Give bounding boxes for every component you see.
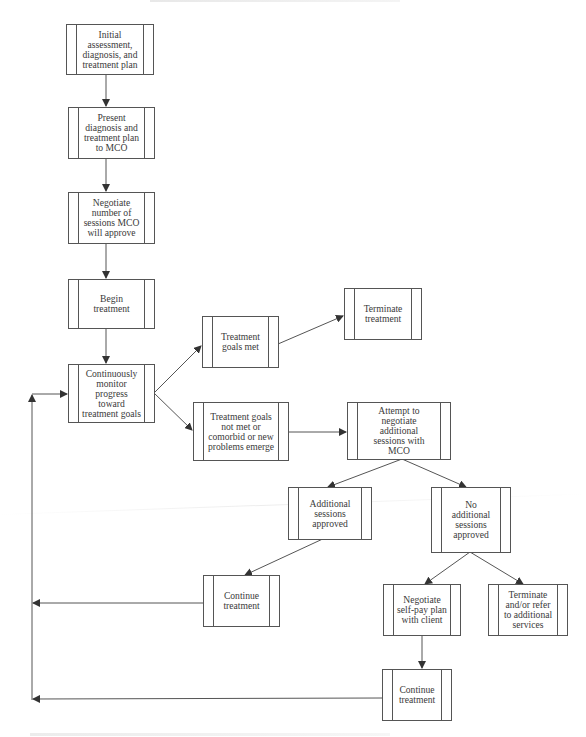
node-additional-approved: Additional sessions approved bbox=[288, 487, 372, 540]
node-label: Begin treatment bbox=[82, 294, 140, 314]
node-label: Negotiate number of sessions MCO will ap… bbox=[73, 198, 151, 238]
node-label: Present diagnosis and treatment plan to … bbox=[73, 113, 150, 153]
node-label: Continue treatment bbox=[212, 591, 270, 611]
node-continue-treatment-left: Continue treatment bbox=[203, 575, 280, 627]
node-negotiate-sessions: Negotiate number of sessions MCO will ap… bbox=[68, 192, 155, 244]
arrow-attempt-to-approved bbox=[328, 459, 402, 487]
arrow-monitor-to-goals-not-met bbox=[154, 393, 192, 430]
node-label: Additional sessions approved bbox=[298, 499, 361, 529]
arrow-not-approved-to-terminate-refer bbox=[470, 552, 523, 584]
node-label: Negotiate self-pay plan with client bbox=[386, 595, 458, 625]
node-terminate-refer: Terminate and/or refer to additional ser… bbox=[488, 584, 568, 636]
node-self-pay-plan: Negotiate self-pay plan with client bbox=[383, 584, 461, 636]
node-no-additional-approved: No additional sessions approved bbox=[431, 487, 511, 553]
node-label: No additional sessions approved bbox=[441, 500, 501, 540]
node-present-diagnosis: Present diagnosis and treatment plan to … bbox=[68, 107, 155, 159]
node-label: Attempt to negotiate additional sessions… bbox=[363, 406, 436, 456]
node-label: Continuously monitor progress toward tre… bbox=[71, 369, 152, 419]
node-label: Terminate treatment bbox=[353, 304, 414, 324]
node-label: Treatment goals met bbox=[210, 332, 271, 352]
node-initial-assessment: Initial assessment, diagnosis, and treat… bbox=[66, 24, 154, 75]
arrow-approved-to-continue-left bbox=[245, 537, 327, 575]
arrow-not-approved-to-self-pay bbox=[425, 552, 470, 584]
node-label: Treatment goals not met or comorbid or n… bbox=[197, 412, 285, 452]
arrow-monitor-to-goals-met bbox=[154, 346, 201, 393]
node-goals-met: Treatment goals met bbox=[202, 316, 279, 368]
arrow-attempt-to-not-approved bbox=[402, 459, 466, 487]
arrow-continue-bottom-to-loop bbox=[33, 698, 382, 699]
node-label: Terminate and/or refer to additional ser… bbox=[493, 590, 563, 630]
node-terminate-treatment: Terminate treatment bbox=[344, 288, 422, 340]
node-goals-not-met: Treatment goals not met or comorbid or n… bbox=[193, 402, 289, 461]
node-attempt-negotiate: Attempt to negotiate additional sessions… bbox=[347, 402, 451, 460]
node-monitor-progress: Continuously monitor progress toward tre… bbox=[68, 364, 155, 423]
node-continue-treatment-bottom: Continue treatment bbox=[382, 669, 452, 721]
node-label: Continue treatment bbox=[388, 685, 446, 705]
node-begin-treatment: Begin treatment bbox=[68, 279, 155, 329]
node-label: Initial assessment, diagnosis, and treat… bbox=[71, 30, 148, 70]
arrow-goals-met-to-terminate bbox=[278, 316, 343, 344]
